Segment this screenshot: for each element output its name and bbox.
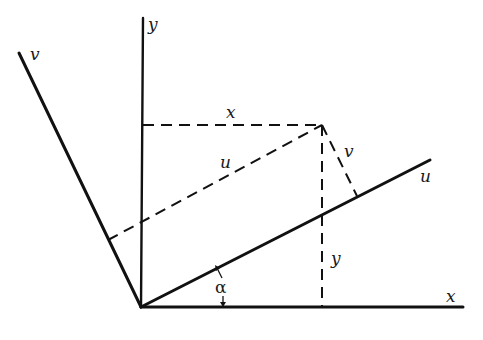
u-axis-label: u bbox=[420, 166, 431, 186]
v-axis bbox=[19, 53, 141, 307]
v-axis-label: v bbox=[30, 44, 40, 64]
y-axis-label: y bbox=[147, 14, 158, 34]
u-axis bbox=[141, 160, 430, 307]
u-projection-label: u bbox=[220, 152, 231, 172]
alpha-label: α bbox=[215, 277, 227, 297]
y-axis bbox=[141, 18, 143, 307]
y-projection-label: y bbox=[330, 248, 341, 268]
x-projection-label: x bbox=[226, 102, 236, 122]
v-projection-label: v bbox=[344, 141, 354, 161]
u-projection-line bbox=[108, 125, 322, 240]
x-axis-label: x bbox=[446, 286, 456, 306]
rotated-axes-diagram: y v x u v u y α x bbox=[0, 0, 483, 340]
